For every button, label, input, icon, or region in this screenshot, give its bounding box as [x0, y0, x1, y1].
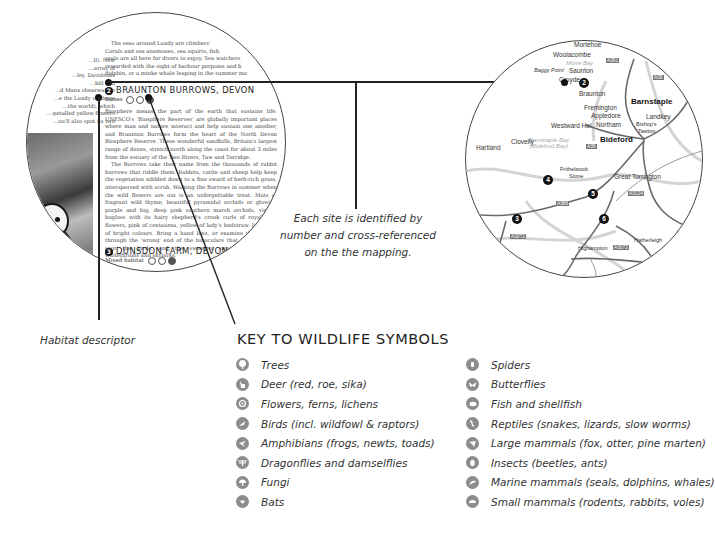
key-label: Small mammals (rodents, rabbits, voles) — [491, 496, 705, 508]
key-label: Flowers, ferns, lichens — [261, 398, 378, 410]
butterfly-icon — [466, 378, 479, 391]
key-item-butterflies: Butterflies — [466, 375, 715, 395]
place-frithelstock: Frithelstock — [560, 166, 588, 172]
deer-icon — [236, 378, 249, 391]
key-list-right: Spiders Butterflies Fish and shellfish R… — [466, 355, 715, 512]
reptile-icon — [466, 417, 479, 430]
key-item-bats: Bats — [236, 492, 435, 512]
marine-mammal-icon — [466, 476, 479, 489]
insect-icon — [466, 456, 479, 469]
key-item-birds: Birds (incl. wildfowl & raptors) — [236, 414, 435, 434]
habitat-caption: Habitat descriptor — [40, 332, 160, 349]
road-label: A39 — [586, 144, 597, 149]
map-site-marker[interactable]: 6 — [599, 214, 609, 224]
road-label: A3124 — [628, 191, 644, 196]
amphibian-icon — [236, 437, 249, 450]
road-label: A3072 — [510, 234, 526, 239]
place-bishops: Bishop's — [636, 121, 657, 127]
place-appledore: Appledore — [591, 112, 621, 119]
place-landkey: Landkey — [646, 113, 671, 120]
key-label: Fungi — [261, 476, 290, 488]
key-item-trees: Trees — [236, 355, 435, 375]
key-label: Bats — [261, 496, 284, 508]
caption-line: Each site is identified by — [258, 210, 458, 227]
place-baggy-point: Baggy Point — [534, 67, 564, 73]
place-hatherleigh: Hatherleigh — [634, 237, 662, 243]
place-westward-ho: Westward Ho! — [551, 122, 592, 129]
key-label: Fish and shellfish — [491, 398, 582, 410]
key-item-amphibians: Amphibians (frogs, newts, toads) — [236, 433, 435, 453]
caption-line: number and cross-referenced — [258, 227, 458, 244]
road-label: A361 — [606, 58, 619, 63]
site-caption: Each site is identified by number and cr… — [258, 210, 458, 261]
road-label: A39 — [653, 75, 664, 80]
key-label: Trees — [261, 359, 289, 371]
tree-icon — [236, 358, 249, 371]
key-label: Deer (red, roe, sika) — [261, 378, 367, 390]
large-mammal-icon — [466, 437, 479, 450]
map-site-marker[interactable]: 3 — [512, 214, 522, 224]
bat-icon — [236, 495, 249, 508]
key-label: Reptiles (snakes, lizards, slow worms) — [491, 418, 691, 430]
key-label: Marine mammals (seals, dolphins, whales) — [491, 476, 715, 488]
key-item-large-mammals: Large mammals (fox, otter, pine marten) — [466, 433, 715, 453]
key-item-fish: Fish and shellfish — [466, 394, 715, 414]
key-label: Large mammals (fox, otter, pine marten) — [491, 437, 706, 449]
road-label: A386 — [556, 201, 569, 206]
road-label: A3072 — [613, 245, 629, 250]
place-tawton: Tawton — [638, 128, 655, 134]
place-highampton: Highampton — [578, 245, 608, 251]
place-great-torrington: Great Torrington — [614, 173, 661, 180]
key-item-reptiles: Reptiles (snakes, lizards, slow worms) — [466, 414, 715, 434]
key-title: KEY TO WILDLIFE SYMBOLS — [237, 331, 449, 347]
place-stone: Stone — [569, 173, 583, 179]
place-hartland: Hartland — [476, 144, 501, 151]
place-morte-bay: Morte Bay — [566, 60, 593, 66]
place-clovelly: Clovelly — [511, 138, 534, 145]
small-mammal-icon — [466, 495, 479, 508]
key-label: Amphibians (frogs, newts, toads) — [261, 437, 435, 449]
callout-dot-map — [561, 79, 568, 86]
key-label: Birds (incl. wildfowl & raptors) — [261, 418, 419, 430]
key-item-small-mammals: Small mammals (rodents, rabbits, voles) — [466, 492, 715, 512]
key-label: Butterflies — [491, 378, 546, 390]
place-fremington: Fremington — [584, 104, 617, 111]
place-woolacombe: Woolacombe — [553, 51, 591, 58]
place-braunton: Braunton — [579, 90, 605, 97]
key-item-flowers: Flowers, ferns, lichens — [236, 394, 435, 414]
key-item-fungi: Fungi — [236, 473, 435, 493]
fungi-icon — [236, 476, 249, 489]
flower-icon — [236, 397, 249, 410]
map-site-marker[interactable]: 5 — [588, 189, 598, 199]
key-item-dragonflies: Dragonflies and damselflies — [236, 453, 435, 473]
map-site-marker[interactable]: 2 — [579, 78, 589, 88]
key-label: Spiders — [491, 359, 530, 371]
bird-icon — [236, 417, 249, 430]
place-bideford: Bideford — [600, 135, 633, 144]
map-site-marker[interactable]: 4 — [543, 175, 553, 185]
key-label: Dragonflies and damselflies — [261, 457, 407, 469]
place-barnstaple: Barnstaple — [631, 97, 672, 106]
fish-icon — [466, 397, 479, 410]
dragonfly-icon — [236, 456, 249, 469]
map-lens: Barnstaple Bay (Bideford Bay) Mortehoe W… — [465, 40, 703, 278]
place-northam: Northam — [596, 121, 621, 128]
place-saunton: Saunton — [569, 67, 593, 74]
key-item-insects: Insects (beetles, ants) — [466, 453, 715, 473]
place-mortehoe: Mortehoe — [574, 41, 601, 48]
key-item-deer: Deer (red, roe, sika) — [236, 375, 435, 395]
key-list-left: Trees Deer (red, roe, sika) Flowers, fer… — [236, 355, 435, 512]
key-label: Insects (beetles, ants) — [491, 457, 607, 469]
key-item-spiders: Spiders — [466, 355, 715, 375]
spider-icon — [466, 358, 479, 371]
caption-line: on the the mapping. — [258, 244, 458, 261]
key-item-marine-mammals: Marine mammals (seals, dolphins, whales) — [466, 473, 715, 493]
map-roads — [466, 41, 702, 277]
